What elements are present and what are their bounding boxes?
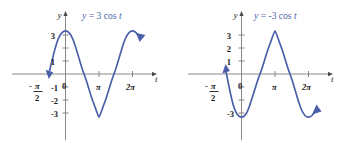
x-tick-label-pi-left: π — [96, 82, 101, 92]
svg-text:π: π — [35, 81, 40, 91]
chart-panel-left: y=3 cost y t 3 1 -1 -2 -3 - π 2 0 π 2π — [0, 0, 178, 157]
x-tick-label-2pi-left: 2π — [125, 82, 135, 92]
y-tick-label-neg1-left: -1 — [51, 83, 58, 93]
x-tick-label-zero-left: 0 — [62, 81, 66, 91]
trig-graph-figure: y=3 cost y t 3 1 -1 -2 -3 - π 2 0 π 2π — [0, 0, 356, 157]
svg-text:2: 2 — [211, 93, 215, 103]
equation-label-left: y=3 cost — [81, 11, 122, 21]
y-tick-label-neg2-left: -2 — [51, 96, 58, 106]
x-tick-label-neg-half-pi-left: - π 2 — [29, 81, 43, 103]
y-tick-label-1-right: 1 — [227, 57, 231, 67]
equation-label-right: y=-3 cost — [253, 11, 297, 21]
svg-text:-: - — [205, 81, 208, 91]
svg-text:-: - — [29, 81, 32, 91]
y-tick-label-neg3-left: -3 — [51, 109, 58, 119]
x-tick-label-neg-half-pi-right: - π 2 — [205, 81, 219, 103]
x-tick-label-2pi-right: 2π — [301, 82, 311, 92]
y-tick-label-neg3-right: -3 — [227, 109, 234, 119]
chart-panel-right: y=-3 cost y t 3 2 1 -3 - π 2 0 π 2π — [178, 0, 356, 157]
y-tick-label-3-left: 3 — [51, 31, 55, 41]
x-axis-name-right: t — [331, 74, 334, 84]
x-tick-label-zero-right: 0 — [238, 81, 242, 91]
y-axis-name-left: y — [57, 10, 62, 20]
y-tick-label-1-left: 1 — [51, 57, 55, 67]
svg-text:π: π — [211, 81, 216, 91]
y-tick-label-3-right: 3 — [227, 31, 231, 41]
svg-text:2: 2 — [35, 93, 39, 103]
y-axis-name-right: y — [233, 10, 238, 20]
x-tick-label-pi-right: π — [272, 82, 277, 92]
x-axis-name-left: t — [155, 74, 158, 84]
y-tick-label-2-right: 2 — [227, 44, 231, 54]
